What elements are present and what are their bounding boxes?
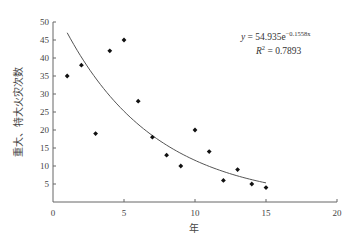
x-tick-label: 15 <box>262 208 272 218</box>
data-point <box>178 164 183 169</box>
y-tick-label: 25 <box>40 107 50 117</box>
y-axis-title: 重大、特大火灾次数 <box>12 67 24 157</box>
equation-exponent: −0.1558x <box>286 30 311 37</box>
data-point <box>107 48 112 53</box>
trend-curve <box>67 33 266 183</box>
y-tick-label: 10 <box>40 161 50 171</box>
x-tick-label: 0 <box>51 208 56 218</box>
data-point <box>136 99 141 104</box>
y-tick-label: 40 <box>40 53 50 63</box>
x-tick-label: 20 <box>333 208 343 218</box>
y-tick-label: 30 <box>40 89 50 99</box>
y-tick-label: 45 <box>40 35 50 45</box>
y-tick-label: 5 <box>45 179 50 189</box>
data-point <box>164 153 169 158</box>
trend-equation: y = 54.935e−0.1558x <box>241 30 310 42</box>
x-tick-label: 5 <box>122 208 127 218</box>
data-point <box>79 63 84 68</box>
data-point <box>122 38 127 43</box>
data-point <box>264 185 269 190</box>
data-point <box>249 182 254 187</box>
y-tick-label: 15 <box>40 143 50 153</box>
data-points <box>65 38 269 190</box>
data-point <box>193 128 198 133</box>
y-tick-label: 20 <box>40 125 50 135</box>
y-tick-label: 50 <box>40 17 50 27</box>
r-squared: R2 = 0.7893 <box>256 44 301 56</box>
data-point <box>207 149 212 154</box>
data-point <box>235 167 240 172</box>
trend-line <box>67 33 266 183</box>
equation-rhs: = 54.935e <box>245 32 285 42</box>
r-squared-value: = 0.7893 <box>265 46 301 56</box>
y-tick-label: 35 <box>40 71 50 81</box>
x-tick-label: 10 <box>191 208 201 218</box>
data-point <box>65 74 70 79</box>
data-point <box>221 178 226 183</box>
data-point <box>93 131 98 136</box>
data-point <box>150 135 155 140</box>
x-axis-title: 年 <box>189 222 199 234</box>
